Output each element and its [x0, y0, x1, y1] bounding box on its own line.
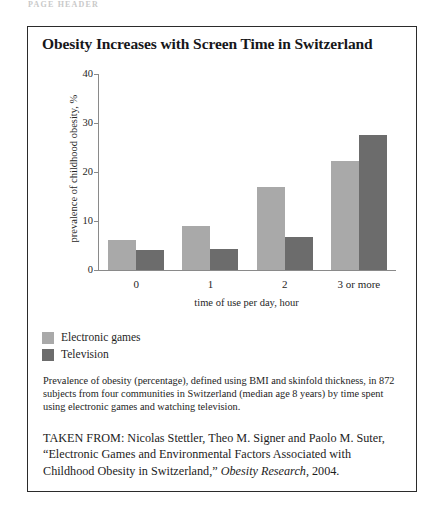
y-tick-30-label: 30 — [83, 117, 94, 128]
y-tick-10: 10 — [83, 216, 94, 226]
figure-caption: Prevalence of obesity (percentage), defi… — [43, 374, 401, 414]
bar-group: 3 or more — [322, 74, 396, 270]
figure-title: Obesity Increases with Screen Time in Sw… — [42, 35, 373, 53]
x-axis-title: time of use per day, hour — [98, 297, 395, 308]
bar-television — [285, 237, 313, 270]
x-tick-label: 1 — [173, 278, 247, 290]
plot-area: 40 30 20 10 0 — [98, 74, 396, 271]
y-tick-30: 30 — [83, 118, 94, 128]
bar-games — [108, 240, 136, 270]
bar-television — [359, 135, 387, 270]
y-tick-20: 20 — [83, 167, 94, 177]
x-tick-label: 2 — [248, 278, 322, 290]
x-tick-label: 3 or more — [322, 278, 396, 290]
legend-label: Television — [61, 348, 109, 361]
running-head: PAGE HEADER — [28, 0, 248, 9]
legend-label: Electronic games — [61, 331, 141, 344]
source-suffix: , 2004. — [306, 464, 340, 478]
legend-item-television: Television — [42, 347, 141, 362]
bar-chart: prevalence of childhood obesity, % 40 30… — [42, 65, 404, 320]
bar-games — [257, 187, 285, 270]
y-tick-40-label: 40 — [83, 68, 94, 79]
y-tick-10-label: 10 — [83, 215, 94, 226]
y-axis-title: prevalence of childhood obesity, % — [68, 81, 79, 256]
source-journal: Obesity Research — [221, 464, 306, 478]
legend-swatch-icon — [42, 332, 54, 344]
chart-legend: Electronic games Television — [42, 330, 141, 364]
y-tick-mark — [94, 221, 98, 222]
bar-group: 0 — [99, 74, 173, 270]
figure-frame: Obesity Increases with Screen Time in Sw… — [27, 26, 417, 492]
figure-source: TAKEN FROM: Nicolas Stettler, Theo M. Si… — [43, 430, 403, 479]
bar-group: 2 — [248, 74, 322, 270]
bar-group: 1 — [173, 74, 247, 270]
y-tick-40: 40 — [83, 69, 94, 79]
bar-groups: 0 1 2 3 or more — [99, 74, 396, 270]
bar-television — [210, 249, 238, 270]
legend-swatch-icon — [42, 349, 54, 361]
y-tick-mark — [94, 74, 98, 75]
y-tick-20-label: 20 — [83, 166, 94, 177]
y-tick-mark — [94, 270, 98, 271]
y-tick-0: 0 — [88, 265, 93, 275]
x-tick-label: 0 — [99, 278, 173, 290]
y-tick-mark — [94, 123, 98, 124]
y-tick-mark — [94, 172, 98, 173]
y-tick-0-label: 0 — [88, 264, 93, 275]
bar-games — [331, 161, 359, 270]
legend-item-electronic-games: Electronic games — [42, 330, 141, 345]
bar-games — [182, 226, 210, 270]
bar-television — [136, 250, 164, 270]
